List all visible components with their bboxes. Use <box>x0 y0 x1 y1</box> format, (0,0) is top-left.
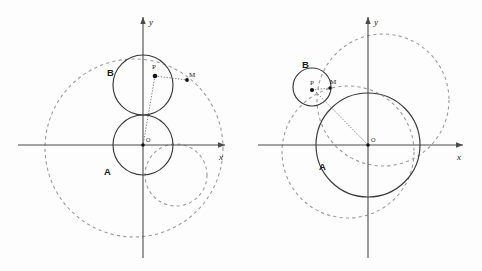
label-y-axis-right: y <box>373 17 378 27</box>
right-diagram: B A P M O y x <box>0 0 482 271</box>
point-O-right <box>366 143 370 147</box>
y-axis-arrow-right <box>365 17 370 24</box>
label-P-right: P <box>310 79 314 87</box>
point-M-right <box>328 86 331 89</box>
x-axis-arrow-right <box>456 142 463 147</box>
label-A-right: A <box>319 161 326 172</box>
label-M-right: M <box>330 78 337 86</box>
label-B-right: B <box>302 59 309 70</box>
figure-root: B A P M O y x B A P M O y x <box>0 0 482 271</box>
point-P-right <box>310 88 314 92</box>
dashed-lower-left-circle-right <box>282 86 414 218</box>
label-x-axis-right: x <box>456 152 461 162</box>
label-O-right: O <box>371 136 376 143</box>
circle-B-right <box>293 68 331 106</box>
dashed-upper-right-circle-right <box>317 34 449 166</box>
